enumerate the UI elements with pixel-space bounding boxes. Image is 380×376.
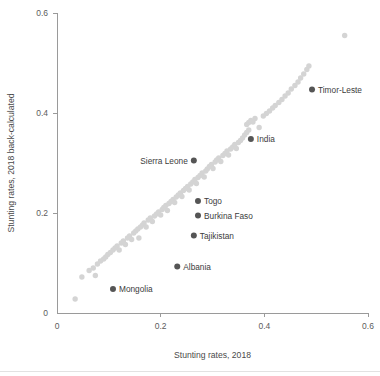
point-label: Burkina Faso [204,211,253,221]
y-tick-label: 0.4 [36,108,48,118]
data-point [93,273,98,278]
highlighted-data-point [191,158,197,164]
point-label: Tajikistan [200,231,235,241]
data-point [72,296,77,301]
highlighted-data-point [110,286,116,292]
data-point [172,200,177,205]
data-point [91,265,96,270]
data-point [256,125,261,130]
point-labels: Timor-LesteIndiaSierra LeoneTogoBurkina … [119,85,362,295]
point-label: Timor-Leste [318,85,362,95]
highlighted-data-point [191,233,197,239]
highlighted-data-point [174,264,180,270]
data-point [202,174,207,179]
data-point [179,194,184,199]
point-label: India [257,134,275,144]
x-tick-label: 0.6 [362,321,374,331]
data-point [79,274,84,279]
data-point [150,219,155,224]
data-point [143,224,148,229]
y-tick-label: 0.2 [36,208,48,218]
x-tick-label: 0 [55,321,60,331]
data-point [301,71,306,76]
point-label: Togo [204,196,222,206]
point-label: Mongolia [119,284,153,294]
highlighted-data-point [309,87,315,93]
data-point [252,116,257,121]
data-point [342,33,347,38]
data-point [129,237,134,242]
data-point [234,146,239,151]
data-point [165,208,170,213]
x-tick-label: 0.4 [258,321,270,331]
data-point [218,159,223,164]
y-axis-title: Stunting rates, 2018 back-calculated [6,93,16,232]
highlighted-data-point [195,213,201,219]
data-point [123,242,128,247]
y-tick-label: 0.6 [36,8,48,18]
data-point [210,166,215,171]
x-tick-label: 0.2 [155,321,167,331]
data-point [136,235,141,240]
point-label: Sierra Leone [140,156,188,166]
data-point [186,187,191,192]
y-tick-label: 0 [43,308,48,318]
highlighted-data-point [248,136,254,142]
x-axis-title: Stunting rates, 2018 [174,350,251,360]
scatter-chart: 00.20.40.600.20.40.6 Timor-LesteIndiaSie… [0,0,380,376]
axis-titles: Stunting rates, 2018Stunting rates, 2018… [6,93,251,360]
data-point [194,181,199,186]
plot-canvas: 00.20.40.600.20.40.6 Timor-LesteIndiaSie… [0,0,380,376]
data-point [246,127,251,132]
highlighted-data-point [195,198,201,204]
point-label: Albania [183,262,211,272]
data-point [226,152,231,157]
data-point [306,63,311,68]
data-point [117,247,122,252]
data-point [158,212,163,217]
